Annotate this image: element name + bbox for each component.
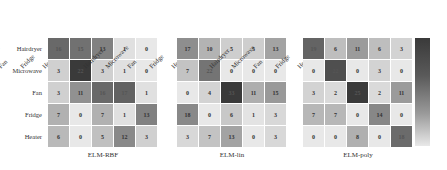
- heatmap-cell: 7: [92, 104, 113, 125]
- heatmap-cell: 22: [325, 60, 346, 81]
- heatmap-cell: 3: [391, 38, 412, 59]
- heatmap-cell: 11: [347, 38, 368, 59]
- row-label: Heater: [25, 133, 42, 140]
- heatmap-cell: 18: [391, 126, 412, 147]
- heatmap-cell: 0: [243, 126, 264, 147]
- heatmap-cell: 0: [303, 126, 324, 147]
- heatmap-cell: 15: [70, 38, 91, 59]
- row-label: Microwave: [12, 67, 42, 74]
- heatmap-cell: 8: [347, 126, 368, 147]
- heatmap-cell: 12: [114, 126, 135, 147]
- heatmap-cell: 0: [70, 104, 91, 125]
- heatmap-cell: 0: [136, 38, 157, 59]
- heatmap-cell: 16: [48, 38, 69, 59]
- heatmap-cell: 0: [369, 126, 390, 147]
- heatmap-cell: 7: [48, 104, 69, 125]
- heatmap-cell: 13: [221, 126, 242, 147]
- heatmap-cell: 6: [221, 104, 242, 125]
- heatmap-cell: 5: [92, 126, 113, 147]
- heatmap-cell: 0: [391, 104, 412, 125]
- heatmap-cell: 0: [177, 82, 198, 103]
- heatmap-cell: 7: [177, 60, 198, 81]
- heatmap-cell: 3: [303, 82, 324, 103]
- heatmap-grid: 19611630220303225211770140008018: [303, 38, 412, 147]
- heatmap-cell: 3: [48, 82, 69, 103]
- heatmap-cell: 6: [325, 38, 346, 59]
- heatmap-cell: 0: [347, 60, 368, 81]
- heatmap-cell: 14: [369, 104, 390, 125]
- row-label: Hairdryer: [17, 45, 42, 52]
- heatmap-cell: 7: [199, 126, 220, 147]
- heatmap-cell: 4: [199, 82, 220, 103]
- heatmap-cell: 0: [325, 126, 346, 147]
- heatmap-cell: 6: [369, 38, 390, 59]
- heatmap-cell: 0: [70, 126, 91, 147]
- heatmap-cell: 3: [48, 60, 69, 81]
- heatmap-cell: 18: [177, 104, 198, 125]
- heatmap-cell: 3: [177, 126, 198, 147]
- heatmap-cell: 11: [391, 82, 412, 103]
- panel-title: ELM-RBF: [48, 151, 158, 159]
- heatmap-cell: 2: [325, 82, 346, 103]
- heatmap-cell: 2: [369, 82, 390, 103]
- heatmap-cell: 0: [199, 104, 220, 125]
- heatmap-cell: 0: [391, 60, 412, 81]
- heatmap-cell: 0: [347, 104, 368, 125]
- heatmap-cell: 7: [303, 104, 324, 125]
- panel-title: ELM-poly: [303, 151, 413, 159]
- heatmap-cell: 3: [369, 60, 390, 81]
- heatmap-cell: 25: [347, 82, 368, 103]
- colorbar: [415, 38, 430, 146]
- panel-title: ELM-lin: [177, 151, 287, 159]
- row-label: Fridge: [25, 111, 42, 118]
- heatmap-cell: 11: [70, 82, 91, 103]
- heatmap-cell: 17: [177, 38, 198, 59]
- heatmap-cell: 7: [325, 104, 346, 125]
- heatmap-cell: 19: [303, 38, 324, 59]
- row-label: Fan: [32, 89, 42, 96]
- heatmap-cell: 0: [303, 60, 324, 81]
- heatmap-cell: 6: [48, 126, 69, 147]
